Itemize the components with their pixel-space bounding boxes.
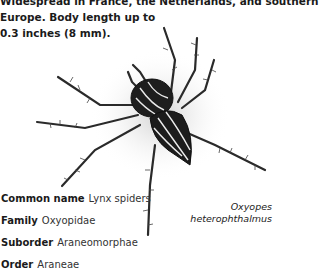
fact-value: Oxyopidae: [42, 215, 96, 226]
description-line: Widespread in France, the Netherlands, a…: [0, 0, 273, 9]
fact-value: Lynx spiders: [89, 193, 151, 204]
fact-value: Araneomorphae: [57, 237, 138, 248]
taxonomy-facts: Common nameLynx spiders FamilyOxyopidae …: [1, 188, 151, 272]
fact-family: FamilyOxyopidae: [1, 210, 151, 232]
fact-label: Order: [1, 259, 33, 270]
fact-label: Suborder: [1, 237, 53, 248]
fact-label: Family: [1, 215, 38, 226]
fact-label: Common name: [1, 193, 85, 204]
caption-genus: Oxyopes: [190, 201, 272, 213]
fact-order: OrderAraneae: [1, 254, 151, 272]
fact-suborder: SuborderAraneomorphae: [1, 232, 151, 254]
species-caption: Oxyopes heterophthalmus: [190, 201, 272, 225]
caption-species: heterophthalmus: [190, 213, 272, 225]
fact-common-name: Common nameLynx spiders: [1, 188, 151, 210]
fact-value: Araneae: [37, 259, 79, 270]
